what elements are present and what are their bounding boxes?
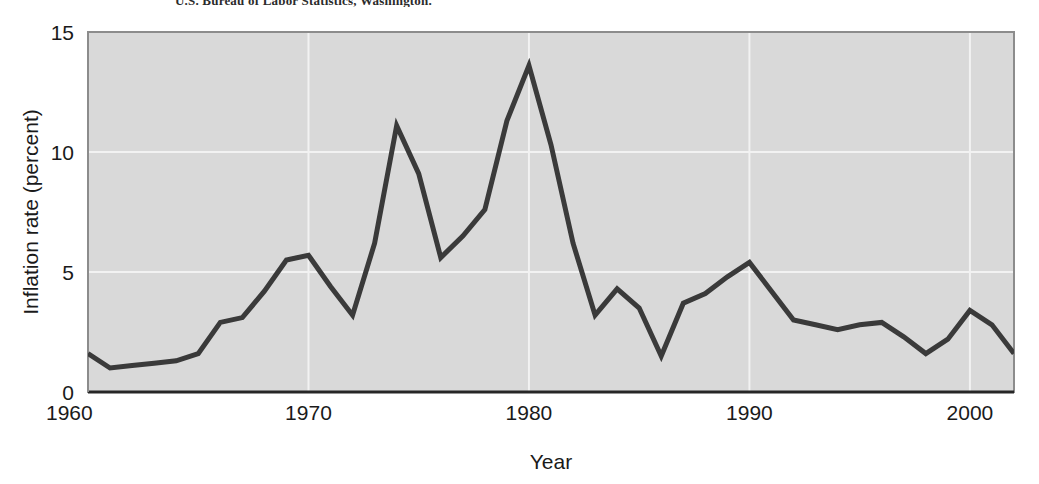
y-axis-title: Inflation rate (percent) bbox=[19, 109, 42, 314]
y-tick-label: 10 bbox=[51, 141, 74, 164]
chart-canvas: 051015 19601970198019902000 Inflation ra… bbox=[0, 0, 1039, 484]
y-tick-label: 15 bbox=[51, 21, 74, 44]
x-tick-label: 1990 bbox=[726, 401, 773, 424]
x-tick-label: 1970 bbox=[285, 401, 332, 424]
x-tick-label: 1980 bbox=[506, 401, 553, 424]
x-tick-label: 2000 bbox=[947, 401, 994, 424]
x-axis-title: Year bbox=[530, 450, 572, 473]
inflation-rate-figure: U.S. Bureau of Labor Statistics, Washing… bbox=[0, 0, 1039, 484]
plot-area-background bbox=[88, 32, 1014, 392]
y-axis-tick-labels: 051015 bbox=[51, 21, 74, 404]
x-axis-tick-labels: 19601970198019902000 bbox=[46, 401, 993, 424]
y-tick-label: 5 bbox=[62, 261, 74, 284]
x-tick-label: 1960 bbox=[46, 401, 93, 424]
